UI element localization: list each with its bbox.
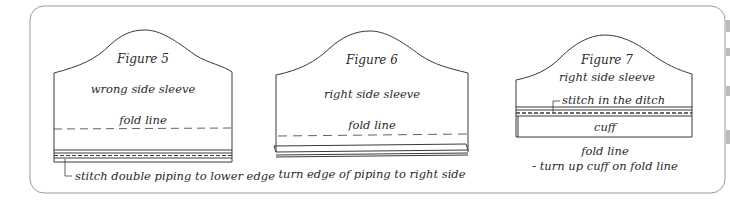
edge-mark <box>726 20 730 32</box>
figure-7-label-cuff: cuff <box>594 120 618 134</box>
figure-7-title: Figure 7 <box>580 53 633 67</box>
piping-edge <box>274 144 468 152</box>
fold-line <box>54 128 232 129</box>
sleeve-cuff-diagram: Figure 5 wrong side sleeve fold line sti… <box>0 0 730 206</box>
figure-7-label-ditch: stitch in the ditch <box>562 93 665 107</box>
figure-5-caption: stitch double piping to lower edge <box>75 169 275 183</box>
edge-mark <box>726 86 730 96</box>
figure-5-label-fold: fold line <box>118 113 167 127</box>
edge-mark <box>726 130 730 144</box>
figure-7-caption-2: - turn up cuff on fold line <box>532 159 678 173</box>
figure-5-title: Figure 5 <box>116 52 169 66</box>
sleeve-outline <box>54 30 232 162</box>
figure-6-label-fold: fold line <box>347 118 396 132</box>
edge-mark <box>726 48 730 56</box>
figure-7-caption: fold line <box>580 144 629 158</box>
figure-5-label-sleeve: wrong side sleeve <box>91 82 196 96</box>
figure-6-title: Figure 6 <box>345 53 398 67</box>
piping-line <box>276 155 468 157</box>
figure-6-label-sleeve: right side sleeve <box>324 87 420 101</box>
figure-6-caption: turn edge of piping to right side <box>278 167 465 181</box>
piping-line <box>276 153 468 155</box>
figure-7-label-sleeve: right side sleeve <box>559 70 655 84</box>
fold-line <box>278 134 468 136</box>
